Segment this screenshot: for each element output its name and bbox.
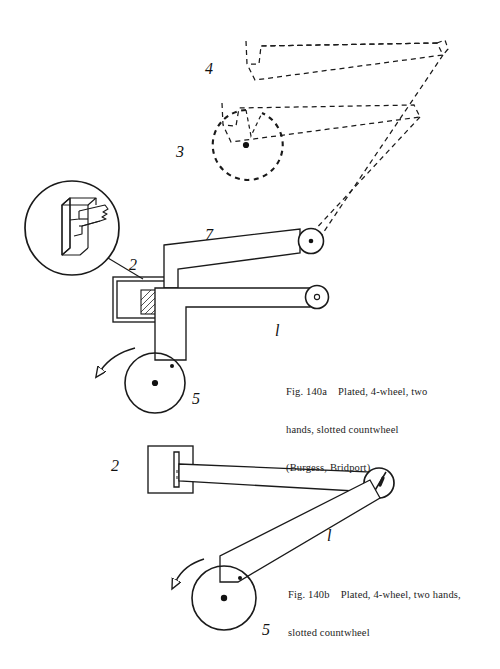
part-label-2-lower: 2	[111, 457, 119, 475]
countwheel-center-pin	[243, 142, 249, 148]
detail-leader-line	[108, 258, 143, 279]
lower-arm-pivot	[306, 286, 329, 309]
slotted-lever-detail-inset	[25, 181, 143, 279]
dashed-linkage-arms	[222, 40, 448, 236]
figure-caption-a: Fig. 140a Plated, 4-wheel, two hands, sl…	[286, 360, 496, 501]
caption-b-line2: slotted countwheel	[288, 627, 498, 640]
part-label-2: 2	[129, 256, 137, 274]
upper-mechanism	[25, 40, 448, 413]
part-label-1: l	[275, 322, 279, 340]
wheel-center-pin	[221, 595, 227, 601]
upper-arm-pivot	[299, 229, 324, 254]
upper-solid-arm	[164, 229, 300, 288]
part-label-5-lower: 5	[262, 621, 270, 639]
upper-driving-wheel	[125, 353, 185, 413]
part-label-3: 3	[176, 143, 184, 161]
lower-solid-arm	[155, 288, 310, 360]
caption-b-line1: Fig. 140b Plated, 4-wheel, two hands,	[288, 589, 498, 602]
wheel-center-pin	[152, 380, 158, 386]
part-label-7: 7	[205, 226, 213, 244]
caption-a-line1: Fig. 140a Plated, 4-wheel, two	[286, 386, 496, 399]
figure-caption-b: Fig. 140b Plated, 4-wheel, two hands, sl…	[288, 563, 498, 665]
part-label-4: 4	[205, 60, 213, 78]
figure-container: 4 3 7 2 l 5 2 l 5 Fig. 140a Plated, 4-wh…	[0, 0, 500, 669]
part-label-5: 5	[192, 390, 200, 408]
slotted-countwheel	[213, 110, 283, 180]
part-label-1-lower: l	[327, 527, 331, 545]
wheel-crank-pin	[238, 576, 242, 580]
caption-a-line3: (Burgess, Bridport)	[286, 462, 496, 475]
caption-a-line2: hands, slotted countwheel	[286, 424, 496, 437]
wheel-crank-pin	[170, 364, 174, 368]
